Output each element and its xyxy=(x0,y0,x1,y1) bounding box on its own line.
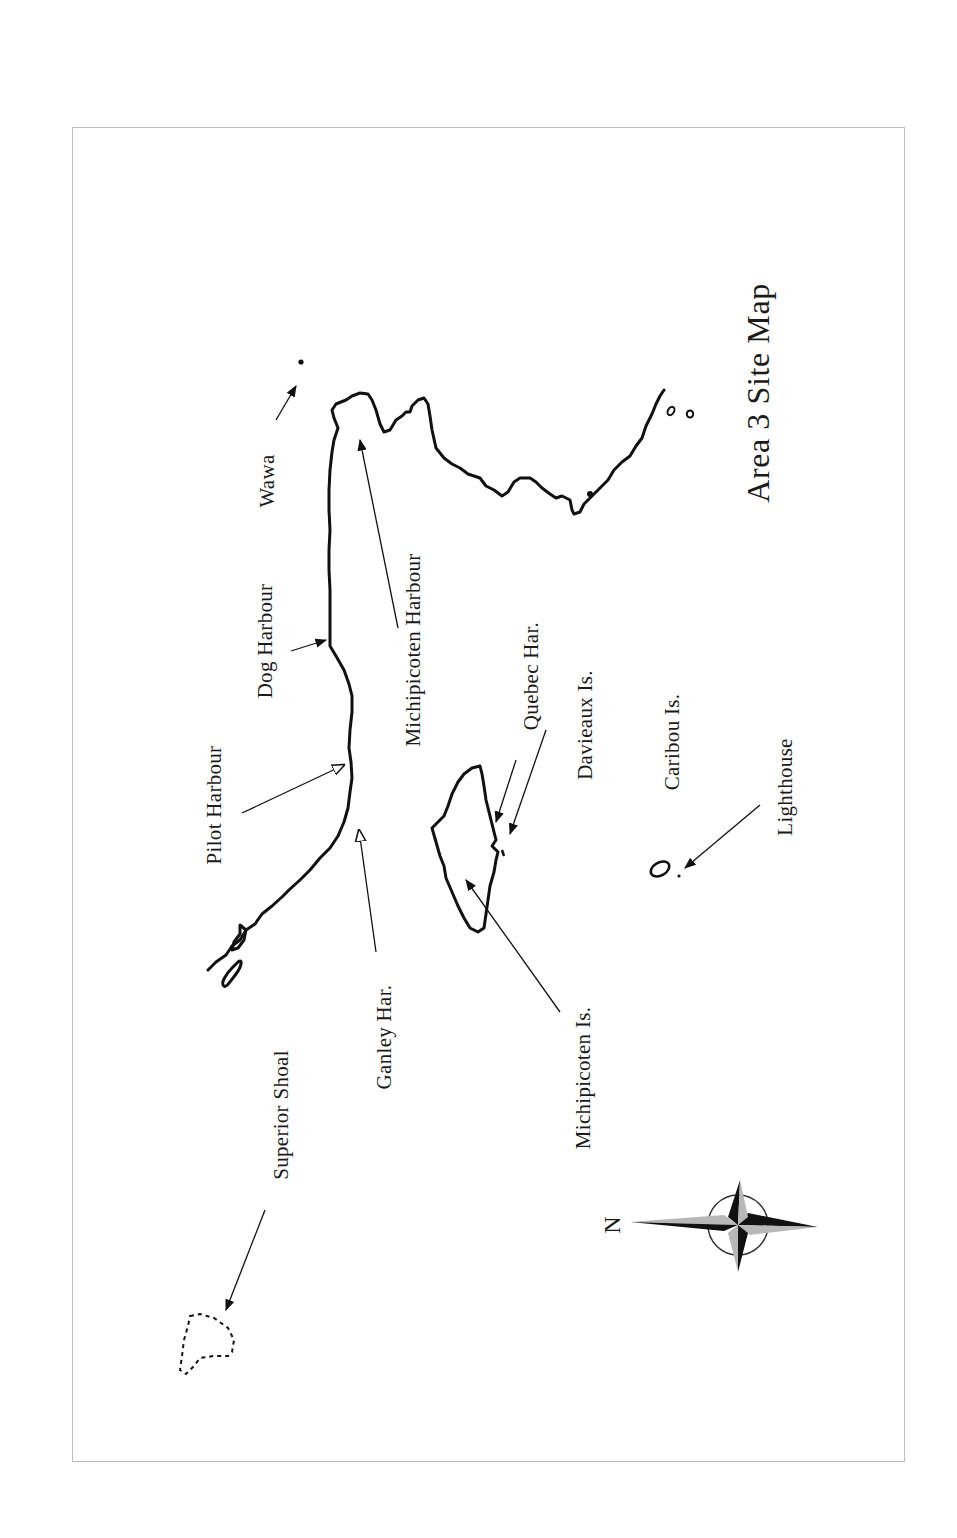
dog-harbour-arrow xyxy=(291,640,326,651)
pilot-harbour-arrow xyxy=(242,765,344,813)
compass-rose-icon xyxy=(630,1180,818,1272)
town-dot-icon xyxy=(298,359,303,364)
islet xyxy=(587,491,593,497)
coastal-island xyxy=(223,961,241,986)
label-quebec-har: Quebec Har. xyxy=(519,622,544,730)
michipicoten-is-arrow xyxy=(466,880,560,1012)
label-dog-harbour: Dog Harbour xyxy=(253,584,278,699)
davieaux-islet xyxy=(502,850,504,856)
davieaux-is-arrow xyxy=(510,730,546,834)
label-michipicoten-harbour: Michipicoten Harbour xyxy=(401,553,426,746)
label-superior-shoal: Superior Shoal xyxy=(269,1050,294,1180)
caribou-island xyxy=(648,858,672,879)
lighthouse-dot xyxy=(677,874,680,877)
michipicoten-harbour-arrow xyxy=(360,440,398,628)
label-davieaux-is: Davieaux Is. xyxy=(573,670,598,780)
coastal-island xyxy=(232,925,246,950)
label-ganley-har: Ganley Har. xyxy=(372,985,397,1090)
map-title: Area 3 Site Map xyxy=(740,283,777,503)
superior-shoal-arrow xyxy=(226,1210,265,1310)
north-label: N xyxy=(599,1216,626,1234)
label-pilot-harbour: Pilot Harbour xyxy=(202,746,227,865)
islet xyxy=(666,406,676,417)
label-michipicoten-is: Michipicoten Is. xyxy=(571,1007,596,1149)
michipicoten-island xyxy=(432,766,498,932)
superior-shoal-outline xyxy=(180,1314,234,1374)
lighthouse-arrow xyxy=(685,805,760,868)
label-lighthouse: Lighthouse xyxy=(773,738,798,836)
label-wawa: Wawa xyxy=(255,454,280,507)
islet xyxy=(687,411,693,418)
wawa-arrow xyxy=(276,386,296,420)
ganley-har-arrow xyxy=(359,830,376,952)
quebec-har-arrow xyxy=(496,760,516,822)
label-caribou-is: Caribou Is. xyxy=(660,694,685,791)
map-canvas xyxy=(0,0,957,1538)
